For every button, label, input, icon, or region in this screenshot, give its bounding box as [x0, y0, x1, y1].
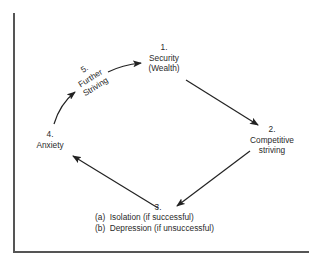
node-4-label: Anxiety	[28, 140, 72, 151]
node-1-number: 1.	[134, 42, 194, 53]
node-3-number: 3.	[150, 202, 166, 213]
node-competitive-striving: 2. Competitive striving	[234, 124, 310, 156]
node-2-number: 2.	[234, 124, 310, 135]
arrow-1-to-2	[186, 80, 258, 125]
node-outcome: 3.	[150, 202, 166, 213]
node-security: 1. Security (Wealth)	[134, 42, 194, 74]
arrow-2-to-3	[177, 151, 250, 206]
node-1-sublabel: (Wealth)	[134, 63, 194, 74]
node-anxiety: 4. Anxiety	[28, 129, 72, 150]
arrow-4-to-5	[54, 92, 75, 124]
outcome-depression: (b) Depression (if unsuccessful)	[95, 223, 214, 234]
node-2-label: Competitive	[234, 135, 310, 146]
arrow-3-to-4	[73, 156, 158, 208]
node-1-label: Security	[134, 53, 194, 64]
outcome-isolation: (a) Isolation (if successful)	[95, 212, 214, 223]
node-3-outcomes: (a) Isolation (if successful) (b) Depres…	[95, 212, 214, 233]
node-2-sublabel: striving	[234, 145, 310, 156]
node-4-number: 4.	[28, 129, 72, 140]
